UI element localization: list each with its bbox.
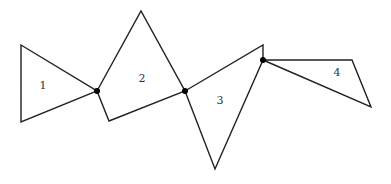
shape-2-label: 2 (139, 72, 146, 85)
shape-4-label: 4 (334, 66, 341, 79)
shape-2-quadrilateral (97, 11, 185, 121)
hinged-polygons-diagram: 1 2 3 4 (0, 0, 391, 184)
shape-3-quadrilateral (185, 45, 263, 169)
shape-1-label: 1 (40, 79, 47, 92)
shape-1-triangle (21, 45, 97, 122)
shape-4-triangle (263, 60, 371, 107)
shape-3-label: 3 (217, 94, 224, 107)
hinge-joint-1-2 (94, 88, 100, 94)
hinge-joint-2-3 (182, 88, 188, 94)
hinge-joint-3-4 (260, 57, 266, 63)
